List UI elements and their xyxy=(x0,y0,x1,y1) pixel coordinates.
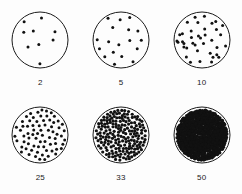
swatch-circle-2[interactable] xyxy=(172,10,232,70)
swatch-label-4: 33 xyxy=(116,173,125,183)
swatch-circle-4[interactable] xyxy=(91,105,151,165)
density-swatch-cell[interactable]: 5 xyxy=(86,0,156,88)
dot-density-figure: 2 5 10 25 xyxy=(0,0,242,194)
swatch-circle-3[interactable] xyxy=(10,105,70,165)
density-swatch-cell[interactable]: 25 xyxy=(5,97,75,183)
density-swatch-cell[interactable]: 50 xyxy=(167,97,237,183)
swatch-label-5: 50 xyxy=(197,173,206,183)
dot-pattern-5 xyxy=(172,105,232,165)
density-swatch-cell[interactable]: 10 xyxy=(167,0,237,88)
swatch-circle-0[interactable] xyxy=(10,10,70,70)
density-swatch-cell[interactable]: 33 xyxy=(86,97,156,183)
swatch-label-0: 2 xyxy=(38,78,43,88)
density-swatch-cell[interactable]: 2 xyxy=(5,0,75,88)
dot-pattern-2 xyxy=(172,10,232,70)
dot-pattern-1 xyxy=(91,10,151,70)
swatch-grid: 2 5 10 25 xyxy=(0,0,242,194)
swatch-label-1: 5 xyxy=(119,78,124,88)
dot-pattern-4 xyxy=(91,105,151,165)
swatch-circle-1[interactable] xyxy=(91,10,151,70)
dot-pattern-3 xyxy=(10,105,70,165)
swatch-label-3: 25 xyxy=(36,173,45,183)
dot-pattern-0 xyxy=(10,10,70,70)
swatch-circle-5[interactable] xyxy=(172,105,232,165)
swatch-label-2: 10 xyxy=(197,78,206,88)
